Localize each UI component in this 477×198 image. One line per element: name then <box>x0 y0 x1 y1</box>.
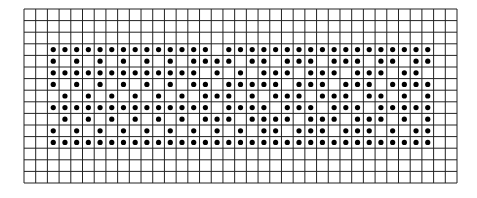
grid-dot <box>320 140 325 145</box>
grid-dot <box>296 47 301 52</box>
grid-dot <box>390 47 395 52</box>
grid-dot <box>425 105 430 110</box>
grid-dot <box>109 70 114 75</box>
grid-dot <box>308 128 313 133</box>
grid-dot <box>156 140 161 145</box>
grid-dot <box>355 47 360 52</box>
grid-dot <box>355 105 360 110</box>
grid-dot <box>308 70 313 75</box>
grid-dot <box>109 117 114 122</box>
grid-dot <box>285 140 290 145</box>
grid-dot <box>367 128 372 133</box>
grid-dot <box>332 140 337 145</box>
grid-dot <box>308 47 313 52</box>
grid-dot <box>226 82 231 87</box>
grid-dot <box>97 70 102 75</box>
grid-dot <box>296 105 301 110</box>
grid-dot <box>109 93 114 98</box>
grid-dot <box>86 93 91 98</box>
grid-dot <box>261 70 266 75</box>
grid-dot <box>390 128 395 133</box>
grid-dot <box>273 117 278 122</box>
grid-dot <box>238 105 243 110</box>
grid-dot <box>97 82 102 87</box>
grid-dot <box>74 140 79 145</box>
grid-dot <box>191 47 196 52</box>
grid-dot <box>226 47 231 52</box>
grid-dot <box>144 82 149 87</box>
grid-dot <box>261 82 266 87</box>
grid-dot <box>332 117 337 122</box>
grid-dot <box>133 117 138 122</box>
grid-dot <box>296 59 301 64</box>
grid-dot <box>168 70 173 75</box>
grid-dot <box>285 59 290 64</box>
grid-dot <box>308 117 313 122</box>
grid-dot <box>355 117 360 122</box>
grid-dot <box>74 105 79 110</box>
grid-dot <box>343 47 348 52</box>
grid-dot <box>74 47 79 52</box>
grid-dot <box>156 70 161 75</box>
grid-dot <box>308 105 313 110</box>
grid-dot <box>367 117 372 122</box>
grid-dot <box>51 59 56 64</box>
grid-dot <box>109 47 114 52</box>
grid-dot <box>203 140 208 145</box>
grid-dot <box>191 128 196 133</box>
grid-dot <box>413 47 418 52</box>
grid-dot <box>109 105 114 110</box>
grid-dot <box>378 117 383 122</box>
grid-dot <box>86 117 91 122</box>
grid-dot <box>86 140 91 145</box>
grid-dot <box>285 105 290 110</box>
grid-dot <box>413 105 418 110</box>
grid-dot <box>62 140 67 145</box>
grid-dot <box>74 82 79 87</box>
grid-dot <box>191 70 196 75</box>
grid-dot <box>191 82 196 87</box>
grid-dot <box>214 70 219 75</box>
grid-dot <box>402 117 407 122</box>
grid-dot <box>413 59 418 64</box>
grid-dot <box>273 140 278 145</box>
grid-dot <box>144 47 149 52</box>
grid-dot <box>121 47 126 52</box>
grid-dot <box>355 82 360 87</box>
grid-dot <box>320 47 325 52</box>
grid-dot <box>261 140 266 145</box>
grid-dot <box>378 70 383 75</box>
grid-dot <box>285 70 290 75</box>
grid-dot <box>296 140 301 145</box>
grid-dot <box>261 117 266 122</box>
grid-dot <box>261 47 266 52</box>
grid-dot <box>203 59 208 64</box>
grid-dot <box>320 82 325 87</box>
grid-dot <box>343 82 348 87</box>
grid-dot <box>51 140 56 145</box>
grid-dot <box>402 105 407 110</box>
grid-dot <box>51 128 56 133</box>
grid-dot <box>250 82 255 87</box>
grid-dot <box>390 105 395 110</box>
grid-dot <box>144 70 149 75</box>
grid-dot <box>273 70 278 75</box>
grid-dot <box>226 59 231 64</box>
grid-dot <box>97 128 102 133</box>
grid-dot <box>238 47 243 52</box>
grid-dot <box>74 59 79 64</box>
grid-dot <box>121 70 126 75</box>
grid-dot <box>168 105 173 110</box>
grid-dot <box>191 59 196 64</box>
grid-dot <box>378 140 383 145</box>
grid-dot <box>261 105 266 110</box>
grid-dot <box>144 128 149 133</box>
grid-dot <box>261 59 266 64</box>
grid-dot <box>226 105 231 110</box>
grid-dot <box>121 128 126 133</box>
grid-dot <box>308 140 313 145</box>
grid-dot <box>156 93 161 98</box>
grid-dot <box>144 140 149 145</box>
grid-dot <box>367 82 372 87</box>
grid-dot <box>62 93 67 98</box>
